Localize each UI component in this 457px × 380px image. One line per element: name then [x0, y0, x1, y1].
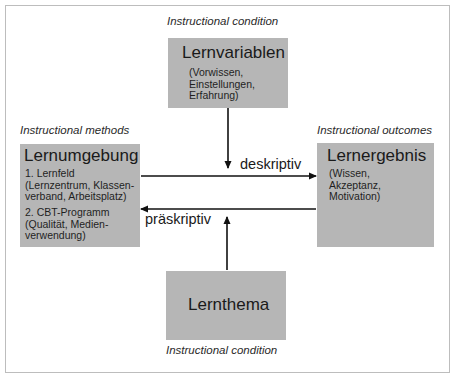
arrows-layer: [0, 0, 457, 380]
